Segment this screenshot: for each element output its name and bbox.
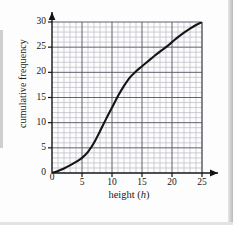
x-tick-label: 20: [162, 177, 182, 187]
x-tick-label: 5: [72, 177, 92, 187]
y-tick-label: 20: [30, 66, 46, 76]
x-axis-arrow: [210, 170, 218, 177]
x-axis-label-variable: h: [141, 189, 146, 200]
y-axis-arrow: [49, 12, 56, 20]
y-tick-label: 5: [30, 142, 46, 152]
x-tick-label: 15: [132, 177, 152, 187]
x-axis-label-text: height: [108, 189, 134, 200]
axis-ticks: [48, 22, 202, 177]
y-tick-label: 30: [30, 16, 46, 26]
cumulative-frequency-chart: 0510152025 051015202530 cumulative frequ…: [0, 0, 233, 225]
y-tick-label: 25: [30, 41, 46, 51]
y-tick-label: 15: [30, 92, 46, 102]
y-tick-label: 10: [30, 117, 46, 127]
x-axis-label: height (h): [74, 189, 184, 200]
y-tick-label: 0: [30, 167, 46, 177]
axis-lines: [49, 12, 218, 176]
y-axis-label: cumulative frequency: [17, 24, 28, 144]
x-tick-label: 25: [192, 177, 212, 187]
x-tick-label: 10: [102, 177, 122, 187]
major-gridlines: [52, 22, 202, 173]
